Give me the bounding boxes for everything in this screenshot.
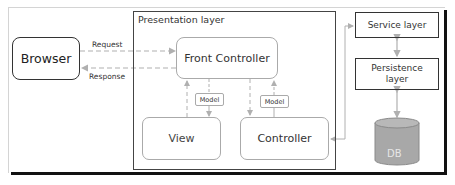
view-label: View <box>168 132 194 145</box>
browser-label: Browser <box>21 51 72 66</box>
model-badge-view: Model <box>195 93 224 106</box>
response-label: Response <box>89 72 125 81</box>
controller-node: Controller <box>240 117 329 160</box>
persistence-label-line1: Persistence <box>371 63 422 74</box>
model-badge-controller: Model <box>260 95 289 108</box>
front-controller-node: Front Controller <box>176 37 278 79</box>
presentation-layer-label: Presentation layer <box>138 14 225 25</box>
service-layer-node: Service layer <box>355 12 439 38</box>
controller-label: Controller <box>257 132 311 145</box>
model-label: Model <box>265 98 285 106</box>
request-label: Request <box>92 40 122 49</box>
view-node: View <box>142 117 221 160</box>
browser-node: Browser <box>12 37 80 80</box>
service-layer-label: Service layer <box>368 20 427 30</box>
persistence-layer-node: Persistence layer <box>355 58 439 90</box>
front-controller-label: Front Controller <box>184 52 269 65</box>
db-label: DB <box>387 148 402 159</box>
persistence-label-line2: layer <box>386 74 409 85</box>
model-label: Model <box>200 96 220 104</box>
